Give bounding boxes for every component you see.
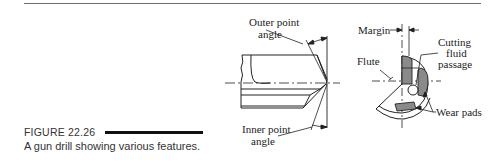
label-cutting-fluid-3: passage <box>438 58 472 70</box>
drill-end-view <box>372 24 441 128</box>
label-inner-point-angle-1: Inner point <box>242 123 291 135</box>
figure-number: FIGURE 22.26 <box>24 126 95 138</box>
figure-caption-text: A gun drill showing various features. <box>24 140 203 152</box>
figure-caption: FIGURE 22.26 A gun drill showing various… <box>24 126 203 152</box>
drill-side-view <box>225 30 340 136</box>
label-wear-pads: Wear pads <box>436 106 482 118</box>
label-margin: Margin <box>358 24 391 36</box>
label-outer-point-angle-1: Outer point <box>249 16 299 28</box>
label-flute: Flute <box>357 55 380 67</box>
label-outer-point-angle-2: angle <box>258 28 282 40</box>
label-inner-point-angle-2: angle <box>251 135 275 147</box>
caption-bar <box>105 131 203 134</box>
